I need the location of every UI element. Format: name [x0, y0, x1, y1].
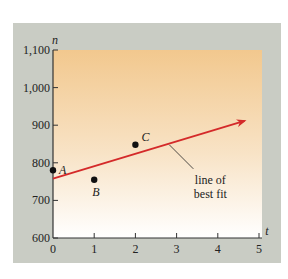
y-tick-label: 700	[32, 193, 50, 207]
x-tick-label: 1	[91, 242, 97, 256]
data-point-b	[91, 177, 97, 183]
y-tick-label: 1,100	[23, 43, 50, 57]
x-tick-label: 3	[174, 242, 180, 256]
x-tick-label: 4	[215, 242, 221, 256]
annotation-text: line of	[195, 173, 226, 187]
x-tick-label: 5	[256, 242, 262, 256]
x-tick-label: 0	[50, 242, 56, 256]
data-point-c	[132, 142, 138, 148]
y-tick-label: 900	[32, 118, 50, 132]
point-label-a: A	[58, 163, 67, 177]
scatter-chart: 6007008009001,0001,100012345nt ABCline o…	[0, 0, 288, 279]
data-point-a	[50, 167, 56, 173]
point-label-c: C	[141, 130, 150, 144]
x-tick-label: 2	[132, 242, 138, 256]
y-axis-label: n	[52, 33, 58, 47]
y-tick-label: 800	[32, 156, 50, 170]
point-label-b: B	[92, 185, 100, 199]
x-axis-label: t	[265, 224, 269, 238]
annotation-text: best fit	[194, 187, 228, 201]
y-tick-label: 600	[32, 231, 50, 245]
y-tick-label: 1,000	[23, 81, 50, 95]
plot-area	[53, 50, 262, 238]
